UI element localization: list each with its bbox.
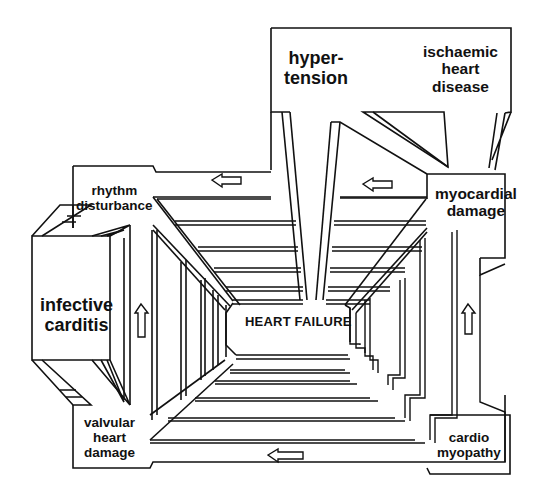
arrow-up-icon (462, 304, 475, 334)
diagonal-myocardial (345, 199, 427, 313)
node-ischaemic-heart-disease: ischaemic heart disease (423, 43, 498, 95)
arrow-left-icon (268, 449, 303, 462)
node-valvular-heart-damage: valvular heart damage (84, 415, 135, 460)
node-myocardial-damage: myocardial damage (435, 185, 517, 220)
stepped-walls (350, 230, 505, 462)
node-rhythm-disturbance: rhythm disturbance (76, 183, 153, 213)
heart-failure-room (226, 303, 350, 359)
node-hypertension: hyper- tension (284, 48, 348, 88)
node-cardiomyopathy: cardio myopathy (437, 430, 501, 460)
heart-failure-diagram: hyper- tension ischaemic heart disease m… (0, 0, 540, 501)
center-heart-failure: HEART FAILURE (245, 315, 352, 330)
arrow-left-icon (212, 174, 241, 187)
arrow-left-icon (363, 178, 392, 191)
node-infective-carditis: infective carditis (40, 295, 113, 335)
arrow-up-icon (135, 304, 148, 337)
diagonal-rhythm (153, 197, 240, 310)
